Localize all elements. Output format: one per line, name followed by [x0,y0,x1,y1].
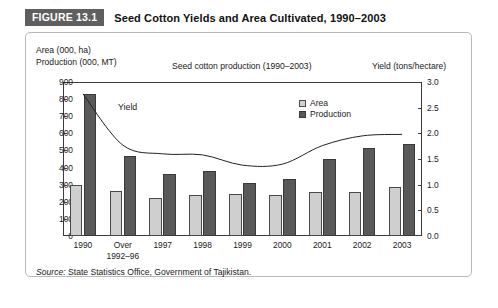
bar-group [269,82,296,236]
left-axis-caption-line2: Production (000, MT) [36,57,117,69]
legend-item: Production [299,109,351,120]
bar-group [70,82,97,236]
x-axis-tick-label: Over1992–96 [103,240,143,261]
legend-item: Area [299,98,351,109]
bar-production [283,179,296,236]
y2-axis-tick-label: 1.0 [427,181,457,189]
bar-production [403,144,416,236]
x-axis-tick-label: 1998 [183,240,223,251]
figure-header: FIGURE 13.1 Seed Cotton Yields and Area … [25,9,386,26]
y2-axis-tick-label: 1.5 [427,155,457,163]
bar-production [84,94,97,236]
figure-title: Seed Cotton Yields and Area Cultivated, … [114,12,386,24]
y2-axis-tick-label: 0.5 [427,206,457,214]
bar-series-layer [63,82,422,236]
bar-area [189,195,202,236]
bar-production [363,148,376,236]
bar-group [389,82,416,236]
x-axis-tick-label: 1997 [143,240,183,251]
legend-swatch-icon [299,111,306,118]
legend-label: Production [310,109,351,121]
x-axis-tick-label: 2002 [342,240,382,251]
bar-production [163,174,176,236]
bar-group [349,82,376,236]
y2-axis-tick-label: 0.0 [427,232,457,240]
bar-production [323,159,336,236]
bar-group [149,82,176,236]
bar-area [149,198,162,237]
source-text: State Statistics Office, Government of T… [68,267,251,277]
bar-production [124,156,137,236]
y2-axis-tick-label: 2.0 [427,129,457,137]
x-axis-tick-label: 2001 [302,240,342,251]
bar-area [110,191,123,236]
bar-production [203,171,216,236]
bar-area [389,187,402,236]
x-axis-tick-label: 1990 [63,240,103,251]
yield-line-label: Yield [118,102,137,112]
bar-area [269,195,282,236]
y2-axis-tick-label: 3.0 [427,78,457,86]
bar-area [309,192,322,236]
x-axis-tick-label: 2003 [382,240,422,251]
legend-swatch-icon [299,100,306,107]
bar-group [229,82,256,236]
left-axis-caption: Area (000, ha) Production (000, MT) [36,45,117,68]
bar-group [189,82,216,236]
source-note: Source: State Statistics Office, Governm… [36,267,251,277]
left-axis-caption-line1: Area (000, ha) [36,45,117,57]
right-axis-caption: Yield (tons/hectare) [372,61,446,71]
x-axis-tick-label: 1999 [223,240,263,251]
y2-axis-tick-label: 2.5 [427,104,457,112]
chart-inner-title: Seed cotton production (1990–2003) [172,61,312,71]
figure-container: FIGURE 13.1 Seed Cotton Yields and Area … [0,0,498,308]
x-axis-labels: 1990Over1992–961997199819992000200120022… [63,240,422,266]
x-axis-tick-label: 2000 [262,240,302,251]
bar-area [229,194,242,236]
bar-area [70,185,83,236]
chart-legend: AreaProduction [299,98,351,120]
legend-label: Area [310,98,328,110]
bar-production [243,183,256,236]
figure-number-badge: FIGURE 13.1 [25,9,104,26]
bar-area [349,192,362,236]
source-label: Source: [36,267,66,277]
